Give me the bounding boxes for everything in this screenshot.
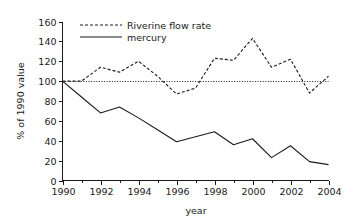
x-tick-label: 1994 xyxy=(127,186,151,197)
line-chart: 020406080100120140160 199019921994199619… xyxy=(0,0,356,222)
series-mercury xyxy=(63,81,329,164)
legend-label-riverine-flow-rate: Riverine flow rate xyxy=(127,20,211,31)
x-axis-title: year xyxy=(185,205,206,216)
chart-legend: Riverine flow rate mercury xyxy=(80,20,211,43)
x-tick-label: 1998 xyxy=(203,186,227,197)
y-tick-label: 100 xyxy=(38,76,56,87)
series-riverine-flow-rate xyxy=(63,38,329,94)
y-tick-label: 40 xyxy=(44,136,56,147)
y-tick-label: 120 xyxy=(38,56,56,67)
y-tick-label: 80 xyxy=(44,96,56,107)
x-tick-label: 1992 xyxy=(89,186,113,197)
x-tick-label: 1990 xyxy=(51,186,75,197)
y-axis-tick-labels: 020406080100120140160 xyxy=(38,17,56,187)
x-axis-tick-labels: 19901992199419961998200020022004 xyxy=(51,186,341,197)
y-axis-ticks xyxy=(59,23,63,182)
chart-figure: 020406080100120140160 199019921994199619… xyxy=(0,0,356,222)
x-tick-label: 2002 xyxy=(279,186,303,197)
x-tick-label: 1996 xyxy=(165,186,189,197)
y-axis-title: % of 1990 value xyxy=(15,62,26,140)
y-tick-label: 140 xyxy=(38,36,56,47)
y-tick-label: 160 xyxy=(38,17,56,28)
x-tick-label: 2000 xyxy=(241,186,265,197)
legend-label-mercury: mercury xyxy=(127,32,167,43)
y-tick-label: 60 xyxy=(44,116,56,127)
x-tick-label: 2004 xyxy=(317,186,341,197)
y-tick-label: 20 xyxy=(44,156,56,167)
